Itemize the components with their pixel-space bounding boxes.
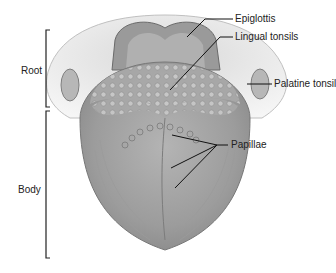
region-label-root: Root (21, 65, 42, 77)
region-label-body: Body (18, 184, 41, 196)
callout-lingual-tonsils: Lingual tonsils (235, 31, 298, 43)
callout-palatine-tonsil: Palatine tonsil (274, 78, 336, 90)
callout-epiglottis: Epiglottis (235, 13, 276, 25)
callout-papillae: Papillae (231, 139, 267, 151)
